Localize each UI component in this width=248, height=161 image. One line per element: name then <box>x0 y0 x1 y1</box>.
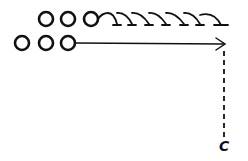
looping-path <box>98 13 228 25</box>
bottom-row-players <box>15 36 75 50</box>
player-circle-bottom-1 <box>15 36 29 50</box>
play-diagram <box>0 0 248 161</box>
player-circle-top-2 <box>61 12 75 26</box>
player-circle-top-1 <box>39 12 53 26</box>
top-row-players <box>39 12 98 26</box>
player-circle-top-3 <box>84 12 98 26</box>
player-circle-bottom-3 <box>61 36 75 50</box>
arrow-path <box>75 38 225 50</box>
end-label: C <box>219 139 229 153</box>
player-circle-bottom-2 <box>39 36 53 50</box>
